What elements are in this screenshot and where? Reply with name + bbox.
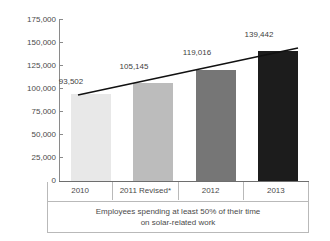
chart-caption: Employees spending at least 50% of their… [48, 201, 308, 232]
y-tick-label: 100,000 [4, 85, 56, 93]
y-tick-label: 50,000 [4, 131, 56, 139]
bar-2011-revised [133, 83, 173, 181]
bar-2010 [71, 94, 111, 181]
y-tick-label: 125,000 [4, 62, 56, 70]
y-tick-label: 25,000 [4, 154, 56, 162]
data-label-2010: 93,502 [51, 78, 91, 86]
y-tick-label: 175,000 [4, 16, 56, 24]
data-label-2011-revised: 105,145 [111, 63, 157, 71]
category-label-2013: 2013 [244, 182, 308, 200]
plot-area [60, 19, 309, 181]
y-tick-label: 150,000 [4, 39, 56, 47]
category-table: 2010 2011 Revised* 2012 2013 Employees s… [47, 182, 309, 233]
bar-2012 [196, 70, 236, 181]
category-label-2012: 2012 [179, 182, 244, 200]
y-tick-label: 75,000 [4, 108, 56, 116]
caption-line-2: on solar-related work [141, 217, 216, 228]
bar-2013 [258, 51, 298, 181]
bar-chart: 175,000 150,000 125,000 100,000 75,000 5… [0, 0, 330, 241]
category-label-2011-revised: 2011 Revised* [113, 182, 178, 200]
data-label-2012: 119,016 [174, 49, 220, 57]
data-label-2013: 139,442 [236, 31, 282, 39]
caption-line-1: Employees spending at least 50% of their… [96, 206, 261, 217]
category-row: 2010 2011 Revised* 2012 2013 [48, 182, 308, 200]
category-label-2010: 2010 [48, 182, 113, 200]
